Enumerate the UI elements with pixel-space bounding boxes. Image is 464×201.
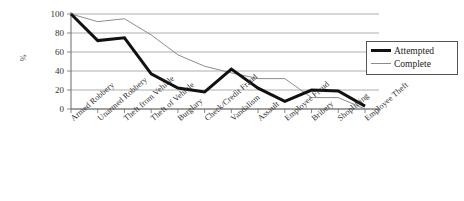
svg-text:20: 20 [55, 85, 65, 95]
svg-text:40: 40 [55, 66, 65, 76]
legend-line-complete-icon [370, 59, 392, 69]
svg-text:80: 80 [55, 28, 65, 38]
legend-line-attempted-icon [370, 46, 392, 56]
svg-text:0: 0 [60, 104, 65, 114]
legend-label-attempted: Attempted [392, 46, 434, 56]
svg-text:60: 60 [55, 47, 65, 57]
y-axis-ticks: 020406080100 [51, 9, 72, 114]
legend: Attempted Complete [366, 41, 458, 75]
legend-item-complete: Complete [370, 57, 453, 70]
line-chart: % 020406080100 Armed RobberyUnarmed Robb… [0, 0, 464, 201]
legend-item-attempted: Attempted [370, 44, 453, 57]
svg-text:100: 100 [51, 9, 65, 19]
legend-label-complete: Complete [392, 59, 431, 69]
gridlines [71, 14, 379, 109]
x-axis [71, 109, 379, 113]
